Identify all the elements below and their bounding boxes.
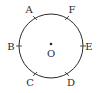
point-label-e: E (85, 41, 92, 52)
center-dot (50, 43, 53, 46)
point-label-d: D (67, 77, 75, 88)
point-label-f: F (69, 4, 76, 15)
circle (19, 14, 83, 78)
point-label-a: A (24, 4, 33, 15)
point-e: E (80, 41, 93, 52)
circle-diagram: O A F B E C D (0, 0, 100, 93)
point-a: A (24, 4, 37, 20)
point-label-c: C (26, 77, 34, 88)
center-label: O (47, 48, 55, 59)
point-label-b: B (7, 41, 14, 52)
